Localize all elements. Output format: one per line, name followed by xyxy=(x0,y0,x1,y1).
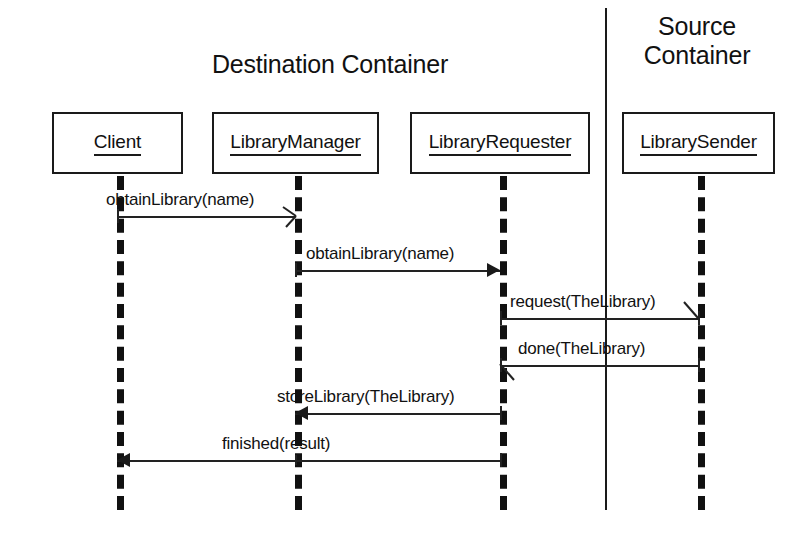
arrowhead-solid-left-5 xyxy=(295,406,308,420)
participant-label-library-manager: LibraryManager xyxy=(230,131,360,156)
message-label-request: request(TheLibrary) xyxy=(510,292,655,312)
message-label-store-library: storeLibrary(TheLibrary) xyxy=(277,387,455,407)
message-target-tick-3 xyxy=(698,311,700,325)
message-crossing-tick-6 xyxy=(295,455,297,465)
message-origin-tick-1 xyxy=(117,209,119,223)
message-line-store-library xyxy=(295,413,500,415)
message-origin-tick-5 xyxy=(500,406,502,420)
message-target-tick-4 xyxy=(500,358,502,372)
message-line-finished xyxy=(117,460,500,462)
arrowhead-solid-left-6 xyxy=(117,453,130,467)
participant-label-library-requester: LibraryRequester xyxy=(429,131,572,156)
container-separator-line xyxy=(605,8,607,510)
participant-box-library-sender[interactable]: LibrarySender xyxy=(622,112,775,174)
message-origin-tick-3 xyxy=(500,311,502,325)
message-line-done xyxy=(500,365,698,367)
message-origin-tick-2 xyxy=(295,263,297,277)
message-line-request xyxy=(500,318,698,320)
participant-box-library-requester[interactable]: LibraryRequester xyxy=(410,112,590,174)
message-line-obtain-library-2 xyxy=(295,270,500,272)
sequence-diagram-canvas: Destination Container Source Container C… xyxy=(0,0,812,552)
arrowhead-solid-right-2 xyxy=(487,263,500,277)
message-label-obtain-library-1: obtainLibrary(name) xyxy=(106,190,254,210)
arrowhead-open-right-1 xyxy=(280,200,300,232)
message-origin-tick-6 xyxy=(500,453,502,467)
message-origin-tick-4 xyxy=(698,358,700,372)
participant-label-client: Client xyxy=(94,131,141,156)
message-label-finished: finished(result) xyxy=(222,434,330,454)
message-label-done: done(TheLibrary) xyxy=(518,339,645,359)
participant-box-library-manager[interactable]: LibraryManager xyxy=(212,112,379,174)
message-label-obtain-library-2: obtainLibrary(name) xyxy=(306,244,454,264)
participant-box-client[interactable]: Client xyxy=(52,112,183,174)
group-title-destination-container: Destination Container xyxy=(130,50,530,79)
message-line-obtain-library-1 xyxy=(117,216,295,218)
participant-label-library-sender: LibrarySender xyxy=(640,131,757,156)
group-title-source-container: Source Container xyxy=(617,12,777,70)
lifeline-library-sender xyxy=(698,176,705,510)
